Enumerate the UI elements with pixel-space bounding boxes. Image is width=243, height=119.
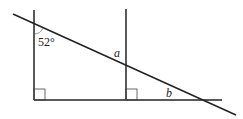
diagram-lines (0, 0, 243, 119)
angle-arc-52 (34, 28, 43, 34)
right-angle-marker-middle (126, 89, 137, 100)
angle-label-52: 52° (38, 36, 55, 48)
geometry-diagram: 52° a b (0, 0, 243, 119)
angle-label-a: a (114, 47, 120, 59)
right-angle-marker-left (34, 89, 45, 100)
angle-label-b: b (166, 87, 172, 99)
